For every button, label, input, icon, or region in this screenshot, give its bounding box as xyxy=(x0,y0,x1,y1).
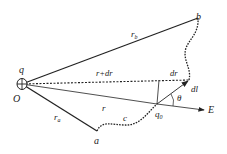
label-O: O xyxy=(13,93,20,104)
label-rb: rb xyxy=(131,29,138,40)
projection-line xyxy=(157,80,159,104)
label-q: q xyxy=(19,64,24,75)
label-r-plus-dr: r+dr xyxy=(96,68,113,78)
label-c: c xyxy=(123,113,127,123)
label-r: r xyxy=(102,103,106,113)
label-dl: dl xyxy=(191,84,199,94)
label-b: b xyxy=(196,11,201,22)
charge-q-icon xyxy=(17,79,27,90)
field-vector-E xyxy=(157,104,204,110)
label-q0: q0 xyxy=(155,109,163,120)
label-theta: θ xyxy=(177,93,182,103)
line-r xyxy=(22,84,157,104)
line-ra xyxy=(22,84,97,131)
theta-arc xyxy=(171,94,174,106)
label-a: a xyxy=(94,135,99,146)
field-work-diagram: q O rb ra r+dr r dr dl θ E c a b q0 xyxy=(0,0,227,154)
label-E: E xyxy=(207,104,214,115)
label-dr: dr xyxy=(170,68,178,78)
label-ra: ra xyxy=(54,112,61,123)
displacement-vector-dl xyxy=(157,81,188,104)
line-r-plus-dr xyxy=(22,80,189,84)
